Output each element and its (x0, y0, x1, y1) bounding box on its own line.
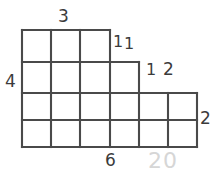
faint-total-label: 20 (148, 150, 178, 172)
dimension-label-top-width: 3 (58, 8, 69, 25)
dimension-label-left-height: 4 (5, 73, 16, 90)
step-label-b-second: 2 (163, 61, 174, 78)
step-label-b-first: 1 (146, 62, 156, 78)
step-label-a-second: 1 (124, 36, 134, 52)
dimension-label-bottom-width: 6 (105, 152, 116, 169)
step-label-a-first: 1 (113, 34, 123, 50)
figure-canvas: 3 4 6 2 1 1 1 2 20 (0, 0, 218, 179)
dimension-label-right-height: 2 (200, 110, 211, 127)
grid-vertical-lines (22, 30, 197, 147)
